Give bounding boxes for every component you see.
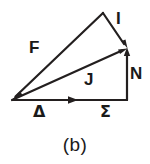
label-delta: Δ	[33, 104, 45, 120]
vector-n-arrowhead	[124, 48, 130, 57]
figure-caption: (b)	[0, 134, 150, 156]
vector-j-shaft	[12, 51, 122, 101]
vector-base-arrowhead	[68, 96, 78, 104]
label-i: I	[116, 10, 121, 27]
label-j: J	[84, 71, 93, 88]
label-f: F	[29, 39, 39, 56]
figure-container: F I J N Δ Σ (b)	[0, 0, 150, 164]
label-sigma: Σ	[100, 104, 111, 120]
label-n: N	[130, 65, 142, 82]
vector-i-shaft	[103, 13, 124, 44]
vector-i-arrowhead	[122, 40, 128, 49]
